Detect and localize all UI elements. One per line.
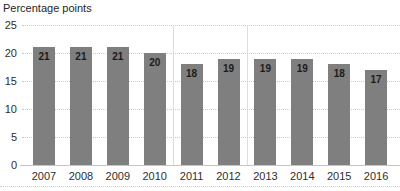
bar-2011 — [181, 64, 203, 165]
period-divider-after-2012 — [247, 25, 248, 165]
bar-value-2007: 21 — [33, 51, 55, 62]
y-axis-tick-10: 10 — [0, 103, 17, 115]
bar-value-2011: 18 — [181, 68, 203, 79]
bar-chart: Percentage points 0510152025 21212120181… — [0, 0, 400, 191]
bar-value-2013: 19 — [254, 63, 276, 74]
y-axis-tick-15: 15 — [0, 75, 17, 87]
period-divider-after-2010 — [173, 25, 174, 165]
bar-2014 — [291, 59, 313, 165]
bar-2010 — [144, 53, 166, 165]
bar-value-2014: 19 — [291, 63, 313, 74]
bar-2007 — [33, 47, 55, 165]
bar-2008 — [70, 47, 92, 165]
bar-value-2010: 20 — [144, 57, 166, 68]
bar-2015 — [328, 64, 350, 165]
bar-value-2012: 19 — [218, 63, 240, 74]
gridline-0 — [20, 165, 400, 166]
chart-title: Percentage points — [3, 2, 92, 15]
y-axis-tick-25: 25 — [0, 19, 17, 31]
bottom-divider-rule — [0, 186, 400, 187]
y-axis-tick-20: 20 — [0, 47, 17, 59]
bar-value-2015: 18 — [328, 68, 350, 79]
bar-2013 — [254, 59, 276, 165]
bar-value-2008: 21 — [70, 51, 92, 62]
bar-value-2009: 21 — [107, 51, 129, 62]
gridline-25 — [22, 25, 400, 26]
y-axis-tick-0: 0 — [0, 159, 17, 171]
bar-2009 — [107, 47, 129, 165]
y-axis-tick-5: 5 — [0, 131, 17, 143]
x-axis-tick-2016: 2016 — [354, 170, 398, 182]
bar-value-2016: 17 — [365, 74, 387, 85]
bar-2012 — [218, 59, 240, 165]
